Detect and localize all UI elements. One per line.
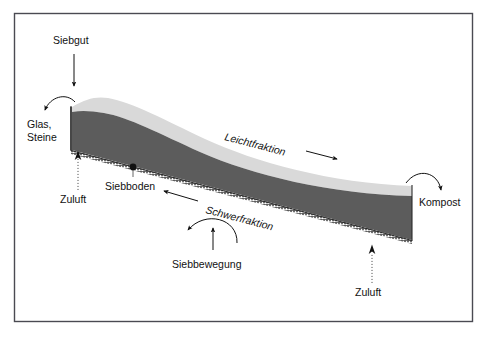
zuluft-right-arrowhead	[369, 245, 376, 255]
screen-motion-flow: Siebbewegung	[172, 219, 242, 270]
label-zuluft-right: Zuluft	[355, 286, 381, 298]
label-siebboden: Siebboden	[105, 180, 155, 192]
siebboden-node-dot	[130, 164, 137, 171]
label-siebgut: Siebgut	[53, 34, 89, 46]
diagram-root: Siebgut Glas, Steine Zuluft Siebboden Le…	[0, 0, 488, 337]
air-inlet-right-flow: Zuluft	[355, 245, 381, 299]
label-siebbewegung: Siebbewegung	[172, 258, 242, 270]
screening-process-diagram: Siebgut Glas, Steine Zuluft Siebboden Le…	[0, 0, 488, 337]
schwerfraktion-arrow	[164, 191, 198, 201]
label-zuluft-left: Zuluft	[60, 193, 86, 205]
label-kompost: Kompost	[419, 196, 461, 208]
compost-flow: Kompost	[406, 173, 461, 208]
label-steine: Steine	[27, 131, 57, 143]
feed-flow: Siebgut	[53, 34, 89, 86]
label-schwerfraktion: Schwerfraktion	[204, 203, 274, 232]
air-inlet-left-flow: Zuluft	[60, 151, 86, 206]
label-glas: Glas,	[27, 118, 52, 130]
glass-stones-flow: Glas, Steine	[27, 97, 75, 143]
leichtfraktion-arrow	[306, 151, 337, 159]
